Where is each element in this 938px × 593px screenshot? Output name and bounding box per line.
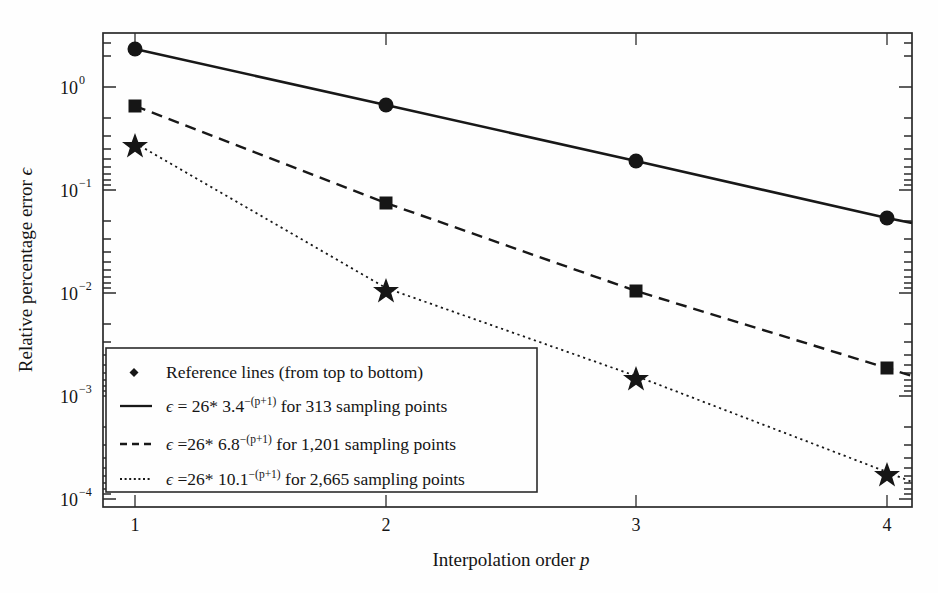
x-tick-label-1: 2 — [382, 515, 391, 535]
data-point-marker-square — [380, 197, 393, 210]
x-tick-label-3: 4 — [883, 515, 892, 535]
data-point-marker-circle — [379, 98, 394, 113]
legend-entry-1-tail: for 1,201 sampling points — [276, 434, 456, 454]
legend-header: Reference lines (from top to bottom) — [166, 362, 423, 382]
legend-entry-2-eq: =26* 10.1 — [177, 469, 248, 489]
data-point-marker-circle — [880, 211, 895, 226]
legend-entry-1-eq: =26* 6.8 — [177, 434, 240, 454]
y-axis-title-symbol: ϵ — [15, 166, 36, 175]
legend-entry-1-exponent: −(p+1) — [240, 433, 272, 446]
x-axis-title-text: Interpolation order — [432, 549, 576, 570]
y-tick-exponent-3: −3 — [79, 382, 92, 396]
x-tick-label-0: 1 — [131, 515, 140, 535]
y-tick-label-0: 10 — [60, 78, 78, 98]
y-axis-title-text: Relative percentage error — [15, 180, 36, 373]
y-tick-exponent-2: −2 — [79, 279, 92, 293]
data-point-marker-square — [630, 285, 643, 298]
x-axis-title-symbol: p — [578, 549, 590, 570]
y-tick-exponent-0: 0 — [79, 73, 85, 87]
y-tick-label-2: 10 — [60, 284, 78, 304]
y-tick-label-1: 10 — [60, 181, 78, 201]
legend: Reference lines (from top to bottom) ϵ =… — [106, 348, 537, 492]
legend-entry-2-exponent: −(p+1) — [249, 468, 281, 481]
x-tick-label-2: 3 — [632, 515, 641, 535]
log-error-vs-interpolation-order-chart: 10 0 10 −1 10 −2 10 −3 10 −4 1 2 3 4 Int… — [0, 0, 938, 593]
legend-entry-1: ϵ =26* 6.8−(p+1) for 1,201 sampling poin… — [166, 433, 456, 454]
data-point-marker-circle — [128, 42, 143, 57]
legend-entry-0: ϵ = 26* 3.4−(p+1) for 313 sampling point… — [166, 395, 448, 416]
data-point-marker-square — [129, 100, 142, 113]
legend-entry-0-eq: = 26* 3.4 — [177, 396, 244, 416]
legend-entry-2-tail: for 2,665 sampling points — [285, 469, 465, 489]
y-tick-label-3: 10 — [60, 387, 78, 407]
y-axis-title: Relative percentage error ϵ — [15, 166, 36, 372]
figure-container: 10 0 10 −1 10 −2 10 −3 10 −4 1 2 3 4 Int… — [0, 0, 938, 593]
data-point-marker-circle — [629, 154, 644, 169]
chart-background — [0, 0, 938, 593]
y-tick-label-4: 10 — [60, 490, 78, 510]
y-tick-exponent-1: −1 — [79, 176, 92, 190]
legend-entry-0-exponent: −(p+1) — [244, 395, 276, 408]
data-point-marker-square — [881, 362, 894, 375]
legend-entry-0-tail: for 313 sampling points — [281, 396, 448, 416]
x-axis-title: Interpolation order p — [432, 549, 589, 570]
legend-entry-2: ϵ =26* 10.1−(p+1) for 2,665 sampling poi… — [166, 468, 465, 489]
y-tick-exponent-4: −4 — [79, 485, 92, 499]
